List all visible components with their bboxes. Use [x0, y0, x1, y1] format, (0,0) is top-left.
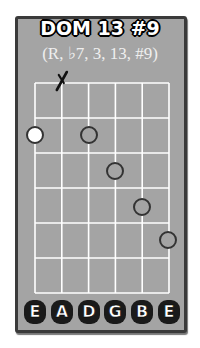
- root-note-dot: [27, 127, 43, 143]
- string-label-3: D: [78, 300, 100, 324]
- note-dot: [134, 199, 150, 215]
- fretboard: [0, 0, 200, 348]
- string-label-6: E: [158, 300, 180, 324]
- fretboard-grid: [35, 83, 169, 293]
- string-label-2: A: [51, 300, 73, 324]
- note-dot: [107, 163, 123, 179]
- string-label-1: E: [24, 300, 46, 324]
- note-dot: [160, 232, 176, 248]
- string-labels: E A D G B E: [0, 300, 200, 324]
- note-dot: [81, 127, 97, 143]
- fretboard-marks: [27, 72, 176, 248]
- string-label-5: B: [131, 300, 153, 324]
- string-label-4: G: [104, 300, 126, 324]
